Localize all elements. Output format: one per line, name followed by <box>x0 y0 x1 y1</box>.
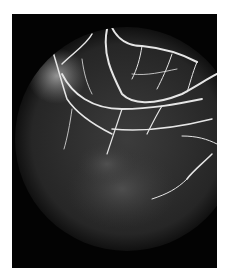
image-caption <box>80 270 140 276</box>
fundus-image <box>12 14 217 268</box>
fundus-image-frame <box>12 14 217 268</box>
